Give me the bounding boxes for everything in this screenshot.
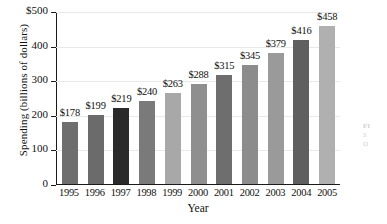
bar[interactable]: $458: [319, 26, 335, 184]
bar-value-label: $458: [317, 11, 337, 22]
y-tick-mark: [51, 185, 56, 186]
y-tick-label: $500: [26, 4, 48, 16]
x-tick-label: 2001: [211, 187, 237, 198]
y-tick-mark: [51, 150, 56, 151]
bar-series: $178$199$219$240$263$288$315$345$379$416…: [57, 12, 340, 184]
bar[interactable]: $416: [293, 40, 309, 184]
bar-value-label: $288: [188, 69, 208, 80]
bar-value-label: $240: [137, 86, 157, 97]
y-tick-mark: [51, 81, 56, 82]
y-tick-mark: [51, 47, 56, 48]
bar[interactable]: $288: [191, 84, 207, 184]
x-tick-label: 1998: [133, 187, 159, 198]
x-axis-ticks: 1995199619971998199920002001200220032004…: [56, 187, 340, 198]
bar-chart-figure: Spending (billions of dollars) 010020030…: [0, 0, 387, 224]
x-tick-label: 1995: [56, 187, 82, 198]
bar-slot: $288: [186, 12, 212, 184]
x-tick-label: 2003: [263, 187, 289, 198]
x-axis-line: [56, 184, 340, 185]
y-tick-label: 200: [32, 108, 49, 120]
bar[interactable]: $345: [242, 65, 258, 184]
bar-value-label: $199: [85, 100, 105, 111]
caption-org-line: O: [363, 140, 387, 149]
bar-value-label: $416: [291, 25, 311, 36]
y-tick-label: 400: [32, 39, 49, 51]
bar-slot: $219: [108, 12, 134, 184]
bar-slot: $263: [160, 12, 186, 184]
bar-slot: $345: [237, 12, 263, 184]
bar-value-label: $345: [240, 50, 260, 61]
bar-value-label: $219: [111, 93, 131, 104]
bar-value-label: $263: [163, 78, 183, 89]
caption-source-line: S: [363, 131, 387, 140]
bar-slot: $315: [211, 12, 237, 184]
x-tick-label: 1997: [108, 187, 134, 198]
x-tick-label: 2005: [314, 187, 340, 198]
bar[interactable]: $199: [88, 115, 104, 184]
y-tick-mark: [51, 116, 56, 117]
y-tick-mark: [51, 12, 56, 13]
bar-slot: $416: [289, 12, 315, 184]
bar-value-label: $379: [266, 38, 286, 49]
bar[interactable]: $315: [216, 75, 232, 184]
bar-slot: $240: [134, 12, 160, 184]
bar-value-label: $178: [60, 107, 80, 118]
bar[interactable]: $240: [139, 101, 155, 184]
x-tick-label: 2004: [288, 187, 314, 198]
x-tick-label: 1999: [159, 187, 185, 198]
bar[interactable]: $178: [62, 122, 78, 184]
x-tick-label: 2000: [185, 187, 211, 198]
figure-caption-clipped: FI S O: [363, 122, 387, 149]
y-tick-label: 100: [32, 142, 49, 154]
bar[interactable]: $219: [113, 108, 129, 184]
y-tick-label: 0: [43, 177, 49, 189]
bar-slot: $178: [57, 12, 83, 184]
y-tick-label: 300: [32, 73, 49, 85]
bar-slot: $379: [263, 12, 289, 184]
bar[interactable]: $263: [165, 93, 181, 184]
plot-area: 0100200300400$500 $178$199$219$240$263$2…: [56, 12, 340, 185]
x-axis-title: Year: [56, 202, 340, 214]
bar-slot: $199: [83, 12, 109, 184]
y-axis-title: Spending (billions of dollars): [17, 5, 29, 175]
caption-figure-label: FI: [363, 122, 387, 131]
x-tick-label: 2002: [237, 187, 263, 198]
bar[interactable]: $379: [268, 53, 284, 184]
x-tick-label: 1996: [82, 187, 108, 198]
bar-value-label: $315: [214, 60, 234, 71]
bar-slot: $458: [314, 12, 340, 184]
